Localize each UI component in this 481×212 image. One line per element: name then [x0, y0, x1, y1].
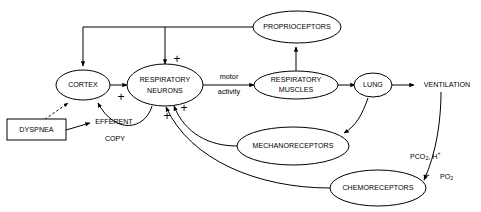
- ventilation-label: VENTILATION: [424, 81, 471, 89]
- motor-activity-label-line2: activity: [218, 87, 241, 96]
- respiratory-neurons-ellipse: [127, 64, 203, 106]
- svg-text:PO2: PO2: [440, 173, 453, 182]
- dyspnea-label: DYSPNEA: [19, 126, 53, 134]
- cortex-label: CORTEX: [68, 81, 98, 89]
- diagram-canvas: PROPRIOCEPTORS CORTEX RESPIRATORY NEURON…: [0, 0, 481, 212]
- node-proprioceptors[interactable]: PROPRIOCEPTORS: [253, 11, 341, 43]
- mechanoreceptors-label: MECHANORECEPTORS: [252, 142, 333, 150]
- plus-sign-mechanoreceptor-input: +: [180, 101, 187, 115]
- respiratory-control-diagram: PROPRIOCEPTORS CORTEX RESPIRATORY NEURON…: [0, 0, 481, 212]
- node-lung[interactable]: LUNG: [354, 73, 392, 97]
- pco2-comma: , H: [428, 153, 437, 161]
- node-cortex[interactable]: CORTEX: [56, 70, 110, 100]
- plus-sign-chemoreceptor-input: +: [163, 109, 170, 123]
- node-dyspnea[interactable]: DYSPNEA: [7, 119, 66, 140]
- h-superscript: +: [437, 150, 440, 156]
- proprioceptors-label: PROPRIOCEPTORS: [263, 23, 331, 31]
- po2-subscript: 2: [450, 175, 453, 181]
- node-respiratory-neurons[interactable]: RESPIRATORY NEURONS: [127, 64, 203, 106]
- edge-proprioceptors-to-cortex: [83, 27, 253, 66]
- edge-lung-to-mechanoreceptors: [344, 98, 368, 133]
- efferent-copy-label-line1: EFFERENT: [95, 118, 133, 126]
- chemoreceptors-label: CHEMORECEPTORS: [342, 184, 413, 192]
- svg-text:PCO2, H+: PCO2, H+: [410, 150, 441, 161]
- pco2-h-label: PCO2, H+: [410, 150, 441, 161]
- plus-sign-proprioceptors-input: +: [173, 52, 180, 66]
- plus-sign-cortex-input: +: [117, 90, 124, 104]
- po2-label: PO2: [440, 173, 453, 182]
- node-chemoreceptors[interactable]: CHEMORECEPTORS: [330, 170, 426, 206]
- respiratory-neurons-label-line1: RESPIRATORY: [140, 76, 191, 84]
- edge-ventilation-to-chemoreceptors: [424, 92, 441, 180]
- motor-activity-label-line1: motor: [220, 72, 239, 81]
- edge-dyspnea-to-cortex: [66, 123, 90, 130]
- pco2-main: PCO: [410, 153, 426, 161]
- respiratory-neurons-label-line2: NEURONS: [147, 87, 183, 95]
- respiratory-muscles-label-line1: RESPIRATORY: [271, 76, 322, 84]
- respiratory-muscles-ellipse: [254, 71, 338, 99]
- respiratory-muscles-label-line2: MUSCLES: [279, 86, 314, 94]
- po2-main: PO: [440, 173, 451, 181]
- node-respiratory-muscles[interactable]: RESPIRATORY MUSCLES: [254, 71, 338, 99]
- lung-label: LUNG: [363, 81, 383, 89]
- minus-sign-chemoreceptors: −: [422, 168, 429, 182]
- efferent-copy-label-line2: COPY: [105, 135, 125, 143]
- node-mechanoreceptors[interactable]: MECHANORECEPTORS: [237, 127, 349, 165]
